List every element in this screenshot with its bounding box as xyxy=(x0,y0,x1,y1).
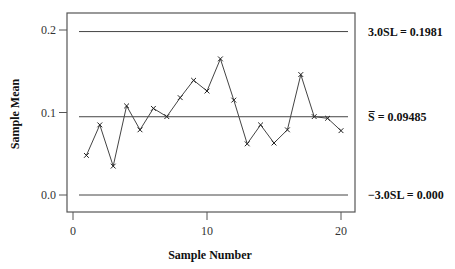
lcl-label: −3.0SL = 0.000 xyxy=(368,188,444,202)
x-marker-icon xyxy=(178,95,183,100)
ucl-label: 3.0SL = 0.1981 xyxy=(368,25,443,39)
x-tick-label: 0 xyxy=(70,224,76,238)
x-marker-icon xyxy=(218,56,223,61)
x-marker-icon xyxy=(339,128,344,133)
x-axis-title: Sample Number xyxy=(168,248,252,262)
x-marker-icon xyxy=(138,127,143,132)
plot-frame xyxy=(67,13,355,212)
y-tick-label: 0.1 xyxy=(41,106,56,120)
y-tick-label: 0.2 xyxy=(41,23,56,37)
x-tick-label: 20 xyxy=(335,224,347,238)
x-marker-icon xyxy=(97,122,102,127)
x-marker-icon xyxy=(272,141,277,146)
y-tick-label: 0.0 xyxy=(41,188,56,202)
x-marker-icon xyxy=(151,106,156,111)
x-marker-icon xyxy=(84,153,89,158)
x-marker-icon xyxy=(191,78,196,83)
x-marker-icon xyxy=(258,122,263,127)
control-chart: 0.00.10.201020 Sample NumberSample Mean3… xyxy=(0,0,455,269)
x-tick-label: 10 xyxy=(201,224,213,238)
x-marker-icon xyxy=(205,89,210,94)
y-axis-title: Sample Mean xyxy=(8,79,22,150)
center-label: S̅ = 0.09485 xyxy=(368,110,427,124)
sample-mean-line xyxy=(86,59,341,166)
